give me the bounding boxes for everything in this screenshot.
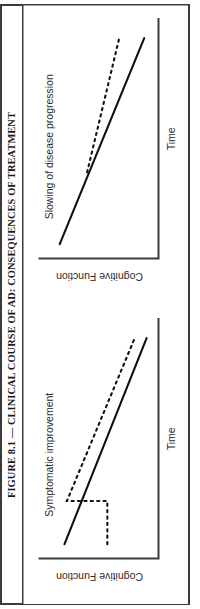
y-axis-label-slowing: Cognitive Function [55,271,142,282]
chart-svg-slowing-of-disease-progression: Cognitive Function Time Slowing of disea… [23,5,188,305]
annotation-slowing-of-disease-progression: Slowing of disease progression [44,74,55,219]
series-untreated-slowing [59,38,143,244]
chart-axes-slowing [39,19,158,259]
chart-panel-slowing-of-disease-progression: Cognitive Function Time Slowing of disea… [23,5,188,305]
charts-canvas: Cognitive Function Time Symptomatic impr… [23,5,188,604]
figure-container: FIGURE 8.1 — CLINICAL COURSE OF AD: CONS… [0,0,200,609]
annotation-symptomatic-improvement: Symptomatic improvement [44,392,55,516]
frame-rule-right [188,4,190,605]
y-axis-label-symptomatic: Cognitive Function [55,570,142,581]
series-untreated-symptomatic [64,338,146,544]
series-treated-slowing [87,38,119,172]
chart-svg-symptomatic-improvement: Cognitive Function Time Symptomatic impr… [23,305,188,605]
charts-viewport: Cognitive Function Time Symptomatic impr… [23,5,188,604]
x-axis-label-slowing: Time [166,127,177,150]
chart-panel-symptomatic-improvement: Cognitive Function Time Symptomatic impr… [23,305,188,605]
figure-caption-band: FIGURE 8.1 — CLINICAL COURSE OF AD: CONS… [0,4,22,605]
x-axis-label-symptomatic: Time [166,427,177,450]
figure-caption: FIGURE 8.1 — CLINICAL COURSE OF AD: CONS… [6,112,17,498]
